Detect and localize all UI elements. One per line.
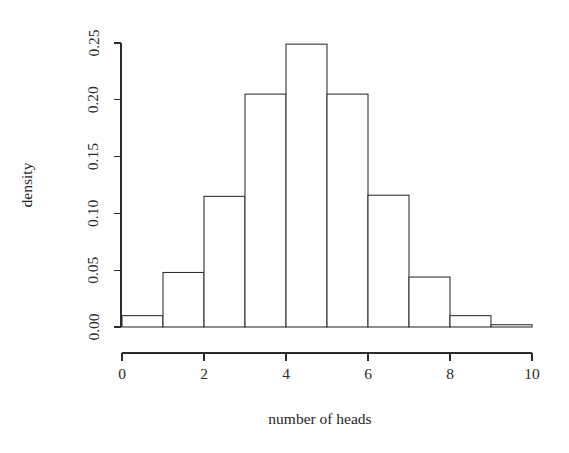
histogram-bar <box>327 94 368 327</box>
y-axis-line <box>114 43 121 327</box>
x-tick-label: 6 <box>364 365 372 382</box>
histogram-bar <box>286 44 327 327</box>
histogram-bar <box>204 196 245 327</box>
y-tick-label: 0.00 <box>85 313 102 340</box>
y-tick-labels: 0.000.050.100.150.200.25 <box>85 29 102 340</box>
histogram-bar <box>409 277 450 327</box>
histogram-bar <box>450 316 491 327</box>
y-tick-label: 0.25 <box>85 29 102 56</box>
y-tick-label: 0.15 <box>85 143 102 170</box>
x-tick-label: 4 <box>282 365 290 382</box>
x-tick-labels: 0246810 <box>118 365 540 382</box>
histogram-bar <box>245 94 286 327</box>
histogram-bars <box>122 44 532 327</box>
histogram-bar <box>122 316 163 327</box>
x-axis <box>122 353 532 361</box>
y-tick-label: 0.20 <box>85 86 102 113</box>
x-axis-line <box>122 353 532 361</box>
histogram-plot: 0.000.050.100.150.200.25 0246810 number … <box>0 0 569 453</box>
y-axis <box>114 43 121 327</box>
y-tick-label: 0.05 <box>85 256 102 283</box>
histogram-bar <box>368 195 409 327</box>
x-tick-label: 2 <box>200 365 208 382</box>
x-tick-label: 10 <box>524 365 540 382</box>
x-axis-title: number of heads <box>268 410 371 427</box>
histogram-bar <box>491 325 532 327</box>
y-axis-title: density <box>18 162 35 207</box>
x-tick-label: 0 <box>118 365 126 382</box>
y-tick-label: 0.10 <box>85 200 102 227</box>
histogram-bar <box>163 272 204 327</box>
x-tick-label: 8 <box>446 365 454 382</box>
histogram-figure: 0.000.050.100.150.200.25 0246810 number … <box>0 0 569 453</box>
